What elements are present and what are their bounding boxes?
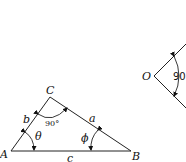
trig-diagram: A B C a b c θ ϕ 90° O 90 [0, 0, 186, 162]
vertex-a-label: A [0, 148, 8, 161]
phi-label: ϕ [81, 132, 89, 145]
right-angle-arc-c [38, 108, 67, 118]
theta-arc [25, 132, 34, 150]
right-angle-o: O 90 [142, 44, 186, 108]
side-b-label: b [23, 113, 30, 126]
theta-label: θ [35, 130, 42, 143]
side-c-label: c [67, 152, 73, 162]
side-a-label: a [89, 112, 96, 125]
right-angle-label: 90° [45, 119, 59, 128]
vertex-o-label: O [142, 70, 151, 83]
angle-o-label: 90 [173, 71, 186, 82]
vertex-b-label: B [131, 150, 140, 162]
phi-arc [91, 130, 98, 150]
vertex-c-label: C [46, 84, 55, 97]
triangle-abc: A B C a b c θ ϕ 90° [0, 84, 140, 162]
